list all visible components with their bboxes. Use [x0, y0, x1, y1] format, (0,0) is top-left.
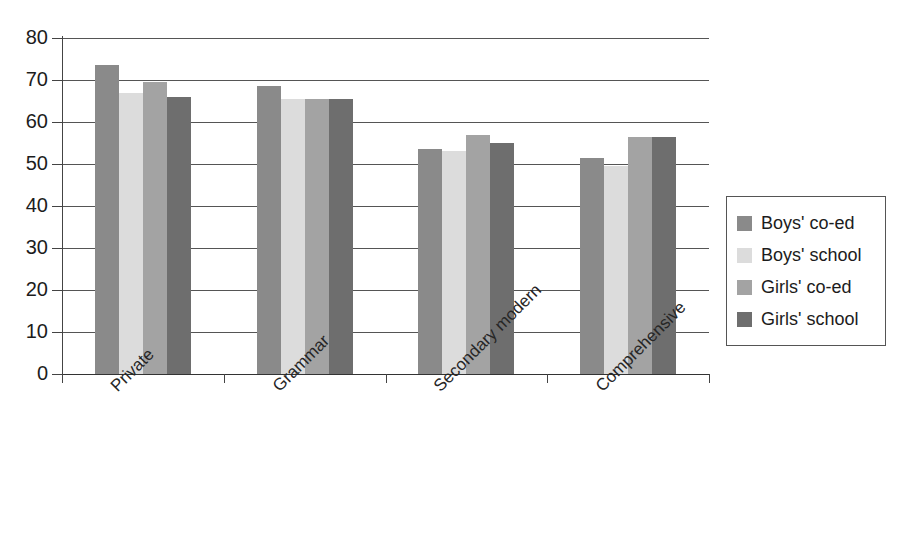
legend-swatch-icon — [737, 280, 752, 295]
y-tick-label: 60 — [8, 111, 48, 131]
bar — [143, 82, 167, 374]
y-tick-label: 30 — [8, 237, 48, 257]
legend-swatch-icon — [737, 312, 752, 327]
bar — [281, 99, 305, 374]
y-tick-label: 70 — [8, 69, 48, 89]
bar — [119, 93, 143, 374]
chart-legend: Boys' co-edBoys' schoolGirls' co-edGirls… — [726, 196, 886, 346]
legend-item-label: Girls' co-ed — [761, 278, 851, 296]
y-tick-label: 80 — [8, 27, 48, 47]
x-tick-mark — [386, 374, 387, 383]
legend-swatch-icon — [737, 248, 752, 263]
y-tick-label: 50 — [8, 153, 48, 173]
legend-item-label: Girls' school — [761, 310, 858, 328]
x-tick-mark — [709, 374, 710, 383]
bar — [329, 99, 353, 374]
x-tick-mark — [547, 374, 548, 383]
bar — [167, 97, 191, 374]
bar — [580, 158, 604, 374]
y-tick-label: 10 — [8, 321, 48, 341]
legend-item: Boys' co-ed — [737, 207, 877, 239]
x-tick-mark — [224, 374, 225, 383]
legend-swatch-icon — [737, 216, 752, 231]
legend-item-label: Boys' co-ed — [761, 214, 854, 232]
bar — [95, 65, 119, 374]
bars-layer — [62, 38, 709, 374]
legend-item: Girls' school — [737, 303, 877, 335]
bar — [604, 166, 628, 374]
bar — [442, 151, 466, 374]
y-tick-label: 40 — [8, 195, 48, 215]
bar — [257, 86, 281, 374]
legend-item: Girls' co-ed — [737, 271, 877, 303]
legend-item: Boys' school — [737, 239, 877, 271]
y-tick-label: 0 — [8, 363, 48, 383]
bar — [418, 149, 442, 374]
y-tick-label: 20 — [8, 279, 48, 299]
legend-item-label: Boys' school — [761, 246, 862, 264]
y-axis-labels: 01020304050607080 — [0, 0, 48, 550]
chart-canvas: 01020304050607080 PrivateGrammarSecondar… — [0, 0, 902, 550]
x-tick-mark — [62, 374, 63, 383]
